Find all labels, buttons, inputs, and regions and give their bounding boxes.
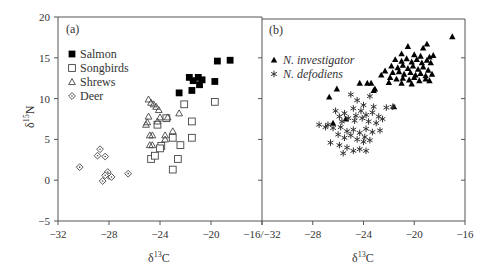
n-defodiens-marker: [366, 118, 372, 125]
x-tick-label: −28: [100, 228, 118, 240]
panel-b-x-axis-label: δ13C: [352, 250, 374, 265]
songbird-marker: [177, 142, 184, 149]
n-investigator-marker: [430, 52, 436, 58]
x-tick-label: −20: [202, 228, 220, 240]
n-defodiens-marker: [338, 124, 344, 131]
salmon-marker: [214, 58, 221, 65]
n-defodiens-marker: [344, 128, 350, 135]
y-tick-label: 20: [39, 11, 51, 23]
n-defodiens-marker: [361, 139, 367, 146]
n-defodiens-marker: [350, 126, 356, 133]
n-defodiens-marker: [328, 139, 334, 146]
n-defodiens-marker: [358, 108, 364, 115]
y-tick-label: 5: [45, 133, 51, 145]
n-investigator-marker: [405, 43, 411, 49]
x-tick-label: −24: [355, 228, 373, 240]
legend-label: Songbirds: [80, 61, 129, 75]
n-defodiens-marker: [335, 131, 341, 138]
panel-b-data-points: [316, 33, 455, 156]
panel-b-legend: N. investigatorN. defodiens: [271, 53, 355, 81]
shrew-marker: [169, 128, 176, 134]
n-defodiens-marker: [361, 102, 367, 109]
salmon-marker: [211, 78, 218, 85]
n-defodiens-marker: [350, 105, 356, 112]
n-defodiens-marker: [354, 136, 360, 143]
n-investigator-marker: [424, 41, 430, 47]
n-defodiens-marker: [377, 127, 383, 134]
songbird-marker: [169, 134, 176, 141]
shrew-marker: [143, 121, 150, 127]
songbird-marker: [188, 134, 195, 141]
legend-label: N. defodiens: [282, 67, 343, 81]
n-investigator-marker: [411, 51, 417, 57]
x-tick-label: −16/−32: [243, 228, 280, 240]
shrew-marker: [176, 110, 183, 116]
n-defodiens-marker: [363, 148, 369, 155]
n-investigator-marker: [393, 76, 399, 82]
n-investigator-marker: [392, 56, 398, 62]
songbird-marker: [169, 166, 176, 173]
n-defodiens-marker: [353, 112, 359, 119]
n-defodiens-marker: [373, 120, 379, 127]
songbird-marker: [188, 118, 195, 125]
n-defodiens-marker: [337, 142, 343, 149]
n-defodiens-marker: [367, 93, 373, 100]
x-tick-label: −32: [49, 228, 66, 240]
salmon-marker: [69, 51, 76, 58]
n-defodiens-marker: [370, 109, 376, 116]
panel-a-x-axis-label: δ13C: [148, 250, 170, 265]
salmon-marker: [227, 57, 234, 64]
n-defodiens-marker: [367, 137, 373, 144]
n-investigator-marker: [388, 63, 394, 69]
songbird-marker: [211, 98, 218, 105]
salmon-marker: [176, 89, 183, 96]
legend-label: Shrews: [80, 75, 116, 89]
songbird-marker: [181, 101, 188, 108]
panel-a-y-axis-label: δ15N: [22, 105, 37, 128]
n-defodiens-marker: [316, 121, 322, 128]
n-defodiens-marker: [342, 110, 348, 117]
n-investigator-marker: [417, 53, 423, 59]
figure: −505101520 −32−28−24−20−16/−32 (a) Salmo…: [0, 0, 493, 269]
x-tick-label: −24: [151, 228, 169, 240]
n-defodiens-marker: [348, 91, 354, 98]
shrew-marker: [162, 132, 169, 138]
x-tick-label: −28: [304, 228, 322, 240]
n-defodiens-marker: [357, 130, 363, 137]
y-tick-label: 15: [39, 52, 51, 64]
series-salmon: [176, 57, 234, 96]
x-tick-label: −20: [406, 228, 424, 240]
n-defodiens-marker: [371, 103, 377, 110]
shrew-marker: [69, 79, 76, 85]
n-investigator-marker: [271, 57, 277, 63]
n-defodiens-marker: [362, 134, 368, 141]
n-investigator-marker: [416, 77, 422, 83]
panel-b-x-ticks: −28−24−20−16: [262, 221, 474, 240]
n-defodiens-marker: [342, 134, 348, 141]
panel-a-y-ticks: −505101520: [38, 11, 465, 227]
panel-b-label: (b): [269, 23, 283, 37]
shrew-marker: [145, 113, 152, 119]
n-investigator-marker: [356, 80, 362, 86]
series-deer: [76, 146, 131, 185]
n-investigator-marker: [382, 68, 388, 74]
n-defodiens-marker: [383, 104, 389, 111]
salmon-marker: [188, 87, 195, 94]
n-investigator-marker: [372, 86, 378, 92]
y-tick-label: −5: [38, 215, 50, 227]
n-defodiens-marker: [352, 117, 358, 124]
panel-b: −28−24−20−16 (b) N. investigatorN. defod…: [262, 17, 474, 265]
salmon-marker: [196, 81, 203, 88]
songbird-marker: [152, 152, 159, 159]
panel-a-label: (a): [66, 22, 79, 36]
panel-a-legend: SalmonSongbirdsShrewsDeer: [69, 47, 129, 103]
n-investigator-marker: [326, 94, 332, 100]
n-defodiens-marker: [354, 97, 360, 104]
n-defodiens-marker: [340, 150, 346, 157]
legend-label: N. investigator: [282, 53, 355, 67]
y-tick-label: 10: [39, 93, 51, 105]
x-tick-label: −16: [456, 228, 474, 240]
n-defodiens-marker: [271, 71, 277, 78]
n-defodiens-marker: [350, 148, 356, 155]
n-defodiens-marker: [363, 125, 369, 132]
